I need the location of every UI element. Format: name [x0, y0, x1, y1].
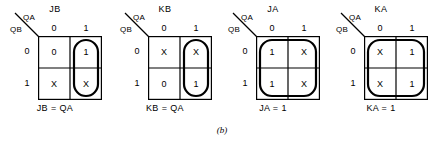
row-variable-label: QB [10, 25, 22, 34]
row-header-1: 1 [346, 78, 360, 88]
kmap-cell: 1 [256, 36, 288, 68]
kmap-caption: JB = QA [0, 103, 110, 113]
kmap-cell: X [288, 36, 320, 68]
kmap-grid: 0 1 X X [38, 36, 102, 100]
figure-label: (b) [0, 125, 444, 135]
kmap-kb: KB QA QB 0 1 0 1 X X 0 1 KB = QA [110, 0, 220, 122]
row-variable-label: QB [336, 25, 348, 34]
row-header-0: 0 [346, 46, 360, 56]
col-header-1: 1 [288, 23, 320, 33]
col-header-0: 0 [364, 23, 396, 33]
kmap-caption: KB = QA [110, 103, 220, 113]
kmap-grid: X X 0 1 [148, 36, 212, 100]
kmap-cell: 0 [148, 68, 180, 100]
kmap-cell: X [148, 36, 180, 68]
kmap-ja: JA QA QB 0 1 0 1 1 X 1 X JA = 1 [218, 0, 328, 122]
col-header-0: 0 [148, 23, 180, 33]
col-header-1: 1 [180, 23, 212, 33]
row-variable-label: QB [120, 25, 132, 34]
kmap-ka: KA QA QB 0 1 0 1 X 1 X 1 KA = 1 [326, 0, 436, 122]
col-variable-label: QA [23, 13, 35, 22]
col-header-1: 1 [396, 23, 428, 33]
col-header-0: 0 [256, 23, 288, 33]
kmap-grid: 1 X 1 X [256, 36, 320, 100]
kmap-cell: X [364, 36, 396, 68]
row-header-0: 0 [20, 46, 34, 56]
col-variable-label: QA [241, 13, 253, 22]
kmap-cell: 1 [396, 68, 428, 100]
kmap-cell: 0 [38, 36, 70, 68]
row-header-1: 1 [130, 78, 144, 88]
kmap-cell: 1 [70, 36, 102, 68]
kmap-grid: X 1 X 1 [364, 36, 428, 100]
row-header-1: 1 [238, 78, 252, 88]
kmap-cell: 1 [180, 68, 212, 100]
kmap-cell: X [70, 68, 102, 100]
row-header-1: 1 [20, 78, 34, 88]
col-header-1: 1 [70, 23, 102, 33]
kmap-cell: X [288, 68, 320, 100]
kmap-caption: KA = 1 [326, 103, 436, 113]
kmap-cell: 1 [396, 36, 428, 68]
kmap-cell: X [38, 68, 70, 100]
row-header-0: 0 [130, 46, 144, 56]
row-variable-label: QB [228, 25, 240, 34]
col-variable-label: QA [133, 13, 145, 22]
col-header-0: 0 [38, 23, 70, 33]
kmap-cell: X [364, 68, 396, 100]
kmap-cell: 1 [256, 68, 288, 100]
col-variable-label: QA [349, 13, 361, 22]
kmap-jb: JB QA QB 0 1 0 1 0 1 X X JB = QA [0, 0, 110, 122]
row-header-0: 0 [238, 46, 252, 56]
kmap-cell: X [180, 36, 212, 68]
karnaugh-map-figure: JB QA QB 0 1 0 1 0 1 X X JB = QA KB [0, 0, 444, 144]
kmap-caption: JA = 1 [218, 103, 328, 113]
